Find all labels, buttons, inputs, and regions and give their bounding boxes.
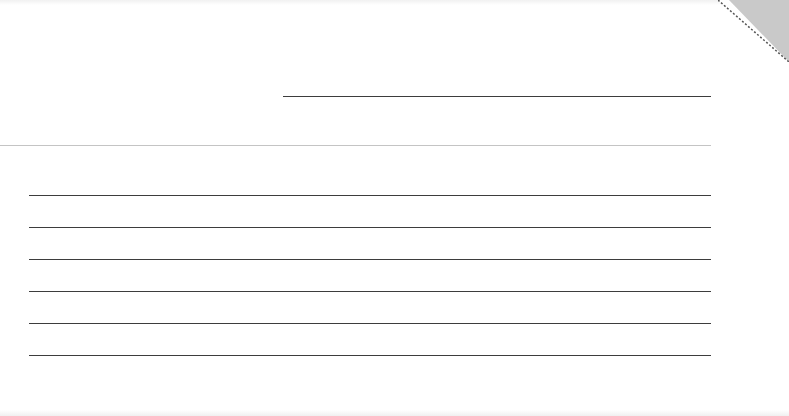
- writing-line-6[interactable]: [29, 355, 711, 356]
- writing-line-1[interactable]: [29, 195, 711, 196]
- writing-line-3[interactable]: [29, 259, 711, 260]
- corner-perforation: [718, 0, 789, 62]
- writing-line-5[interactable]: [29, 323, 711, 324]
- writing-line-2[interactable]: [29, 227, 711, 228]
- lined-card: [0, 0, 789, 416]
- card-bottom-edge-shadow: [0, 410, 789, 416]
- writing-line-4[interactable]: [29, 291, 711, 292]
- section-divider: [0, 145, 711, 146]
- header-field-line[interactable]: [283, 96, 711, 97]
- card-top-edge-shadow: [0, 0, 720, 5]
